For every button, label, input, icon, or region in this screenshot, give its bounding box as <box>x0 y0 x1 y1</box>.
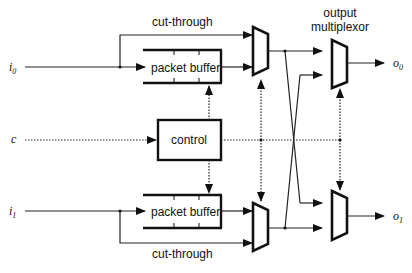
packet-buffer-top-label: packet buffer <box>151 61 220 75</box>
packet-buffer-bottom-label: packet buffer <box>151 205 220 219</box>
output-mux-label-line2: multiplexor <box>311 20 369 34</box>
control-label: control <box>171 133 207 147</box>
cut-through-bottom-label: cut-through <box>152 247 213 261</box>
mux-stage1-bottom <box>253 203 268 251</box>
control-input-c-label: c <box>11 132 17 146</box>
output-o1-label: o1 <box>393 209 403 225</box>
output-mux-bottom <box>332 191 347 240</box>
cut-through-top-label: cut-through <box>152 15 213 29</box>
output-o0-label: o0 <box>393 56 403 72</box>
input-i0-label: i0 <box>9 60 16 76</box>
input-i1-label: i1 <box>9 204 16 220</box>
switch-diagram: cut-through cut-through output multiplex… <box>0 0 412 273</box>
output-mux-top <box>332 40 347 88</box>
mux-stage1-top <box>253 27 268 75</box>
packet-buffer-bottom: packet buffer <box>143 195 222 228</box>
packet-buffer-top: packet buffer <box>143 50 222 83</box>
output-mux-label-line1: output <box>323 6 357 20</box>
